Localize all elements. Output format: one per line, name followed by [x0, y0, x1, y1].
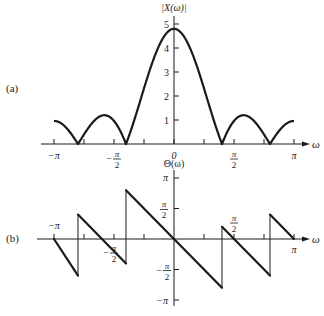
x-axis-arrow-icon	[302, 237, 310, 242]
svg-text:4: 4	[164, 43, 169, 54]
svg-text:−: −	[106, 153, 112, 164]
svg-text:π: π	[165, 261, 170, 271]
svg-text:π: π	[291, 244, 297, 255]
svg-text:2: 2	[112, 254, 117, 264]
svg-text:−π: −π	[48, 220, 61, 231]
panel-b-label: (b)	[6, 232, 19, 245]
panel-a-label: (a)	[6, 82, 19, 95]
svg-text:π: π	[163, 172, 169, 183]
x-axis-label: ω	[312, 233, 320, 245]
y-axis-label: |X(ω)|	[161, 2, 186, 14]
svg-text:5: 5	[164, 19, 169, 30]
svg-text:2: 2	[165, 272, 170, 282]
svg-text:π: π	[232, 213, 237, 223]
svg-text:2: 2	[115, 160, 120, 170]
svg-text:3: 3	[164, 67, 169, 78]
y-axis-label: Θ(ω)	[164, 158, 184, 170]
svg-text:−π: −π	[48, 150, 61, 161]
svg-text:2: 2	[162, 210, 167, 220]
svg-text:π: π	[232, 149, 237, 159]
svg-text:π: π	[115, 149, 120, 159]
svg-text:π: π	[291, 150, 297, 161]
svg-text:2: 2	[232, 160, 237, 170]
svg-text:−: −	[103, 247, 109, 258]
magnitude-plot: ω |X(ω)| −π−π20π2π 12345	[41, 2, 320, 170]
svg-text:2: 2	[164, 91, 169, 102]
figure: (a) (b) ω |X(ω)| −π−π20π2π 12345 ω Θ(ω) …	[0, 0, 324, 316]
phase-plot: ω Θ(ω) −π−π2π2π ππ2−π2−π	[37, 158, 320, 306]
x-axis-arrow-icon	[302, 142, 310, 147]
svg-text:π: π	[162, 199, 167, 209]
svg-text:2: 2	[232, 224, 237, 234]
svg-text:−: −	[156, 265, 162, 276]
svg-text:1: 1	[164, 115, 169, 126]
x-axis-label: ω	[312, 138, 320, 150]
svg-text:−π: −π	[156, 295, 169, 306]
